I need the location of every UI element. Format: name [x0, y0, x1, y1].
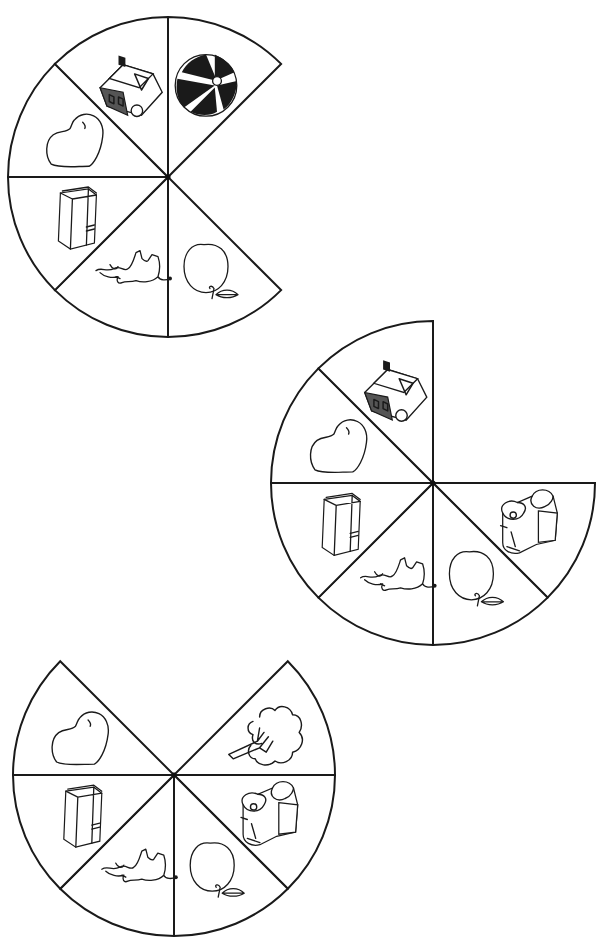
segment-ball: [168, 17, 281, 177]
segment-apple: [168, 177, 281, 337]
worksheet-canvas: [0, 0, 603, 944]
wheels-layer: [8, 17, 595, 936]
book-icon: [64, 785, 102, 847]
wheel-hub: [172, 773, 177, 778]
wheel-3: [13, 661, 335, 936]
segment-tree: [174, 661, 335, 775]
wheel-hub: [166, 175, 171, 180]
wheel-hub: [431, 481, 436, 486]
wedge-outline: [174, 661, 335, 775]
wheel-2: [271, 321, 595, 645]
wheel-1: [8, 17, 281, 337]
book-icon: [58, 187, 96, 249]
book-icon: [322, 493, 360, 555]
segment-heart: [13, 661, 174, 775]
wedge-outline: [13, 661, 174, 775]
ball-icon: [175, 55, 237, 117]
